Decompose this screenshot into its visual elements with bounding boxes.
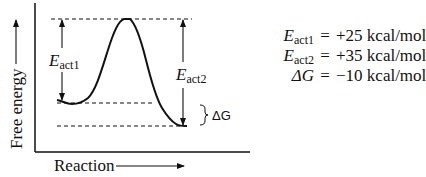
equation-symbol: E	[284, 26, 294, 45]
reaction-curve	[57, 19, 187, 126]
energy-levels	[51, 19, 192, 126]
equation-eact2: Eact2=+35 kcal/mol	[252, 46, 426, 66]
axes	[35, 3, 250, 152]
equation-operator: =	[314, 46, 336, 66]
equation-symbol: ΔG	[292, 66, 314, 85]
equation-subscript: act2	[294, 53, 314, 67]
y-axis-label: Free energy	[7, 68, 26, 149]
equation-operator: =	[314, 66, 336, 86]
delta-g-label: ΔG	[212, 108, 231, 123]
eact2-label: Eact2	[175, 65, 206, 86]
equation-symbol: E	[284, 46, 294, 65]
x-axis-label: Reaction	[54, 156, 115, 175]
equation-subscript: act1	[294, 33, 314, 47]
delta-g-brace	[200, 105, 208, 125]
equation-value: −10 kcal/mol	[336, 66, 426, 85]
equation-delta-g: ΔG=−10 kcal/mol	[252, 66, 426, 86]
equation-eact1: Eact1=+25 kcal/mol	[252, 26, 426, 46]
equation-operator: =	[314, 26, 336, 46]
equation-value: +35 kcal/mol	[336, 46, 426, 65]
eact1-label: Eact1	[48, 51, 79, 72]
equation-value: +25 kcal/mol	[336, 26, 426, 45]
